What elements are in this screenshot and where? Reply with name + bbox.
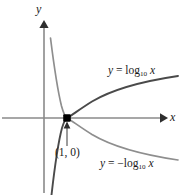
x-axis-label: x [170,111,175,123]
curve-label-log: y = log10 x [108,65,155,78]
curve-label-negative-log: y = −log10 x [100,158,153,171]
curve-label-log-base: 10 [140,70,147,78]
logarithm-graph-figure: y x y = log10 x y = −log10 x (1, 0) [0,0,182,195]
curve-label-neglog-y: y [100,157,105,169]
curve-label-log-func: log [125,64,140,76]
curve-label-log-y: y [108,64,113,76]
curve-negative-log [51,38,179,160]
intersection-point-label: (1, 0) [55,147,80,159]
curve-label-neglog-base: 10 [139,163,146,171]
horizontal-axis [2,113,168,123]
curve-label-log-equals: = [116,64,123,76]
vertical-axis [39,20,48,193]
curve-label-neglog-arg: x [148,157,153,169]
curve-log [52,76,179,195]
curve-label-neglog-equals: = [108,157,115,169]
graph-canvas [0,0,182,195]
curve-label-log-arg: x [150,64,155,76]
curve-label-neglog-func: log [124,157,139,169]
point-callout-arrow [64,122,71,147]
y-axis-arrowhead-icon [39,20,48,28]
y-axis-label: y [36,3,41,15]
x-axis-arrowhead-icon [160,113,168,123]
intersection-point-marker [63,114,71,122]
